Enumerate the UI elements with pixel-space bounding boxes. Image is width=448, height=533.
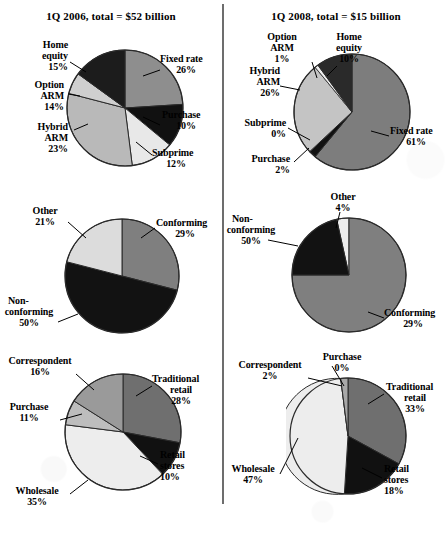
label-non-conforming: Non- conforming 50%	[224, 214, 278, 246]
label-hybrid-arm: Hybrid ARM 26%	[224, 66, 280, 98]
label-option-arm: Option ARM 14%	[2, 80, 64, 112]
figure-page: 1Q 2006, total = $52 billion	[0, 0, 448, 533]
chart-panel-conformance-2006: Other 21% Non- conforming 50% Conforming…	[0, 196, 222, 361]
label-other: Other 21%	[22, 206, 68, 228]
label-retail-stores: Retail stores 10%	[160, 450, 185, 482]
label-purchase: Purchase 11%	[0, 402, 58, 424]
label-correspondent: Correspondent 2%	[230, 360, 310, 382]
label-traditional-retail: Traditional retail 28%	[152, 374, 210, 406]
chart-title: 1Q 2008, total = $15 billion	[224, 10, 448, 22]
label-wholesale: Wholesale 47%	[224, 464, 282, 486]
label-subprime: Subprime 12%	[152, 148, 200, 170]
label-purchase: Purchase 10%	[162, 110, 210, 132]
slice-wholesale[interactable]	[286, 378, 348, 494]
label-non-conforming: Non- conforming 50%	[0, 296, 58, 328]
label-option-arm: Option ARM 1%	[254, 32, 310, 64]
label-purchase: Purchase 2%	[228, 154, 290, 176]
label-other: Other 4%	[320, 192, 366, 214]
label-fixed-rate: Fixed rate 61%	[390, 126, 442, 148]
chart-panel-conformance-2008: Other 4% Non- conforming 50% Conforming …	[224, 190, 448, 360]
label-purchase: Purchase 0%	[312, 352, 372, 374]
chart-panel-channel-2008: Correspondent 2% Purchase 0% Wholesale 4…	[224, 352, 448, 533]
label-conforming: Conforming 29%	[156, 218, 214, 240]
label-retail-stores: Retail stores 18%	[384, 464, 409, 496]
label-subprime: Subprime 0%	[224, 118, 286, 140]
label-fixed-rate: Fixed rate 26%	[160, 54, 212, 76]
chart-title: 1Q 2006, total = $52 billion	[0, 10, 222, 22]
label-correspondent: Correspondent 16%	[2, 356, 78, 378]
label-hybrid-arm: Hybrid ARM 23%	[6, 122, 68, 154]
chart-panel-product-mix-2008: 1Q 2008, total = $15 billion	[224, 0, 448, 195]
label-wholesale: Wholesale 35%	[6, 486, 68, 508]
chart-panel-product-mix-2006: 1Q 2006, total = $52 billion	[0, 0, 222, 195]
pie-svg	[290, 50, 414, 174]
chart-panel-channel-2006: Correspondent 16% Purchase 11% Wholesale…	[0, 352, 222, 533]
label-conforming: Conforming 29%	[384, 308, 442, 330]
label-traditional-retail: Traditional retail 33%	[386, 382, 444, 414]
pie-chart-product-mix-2008	[290, 50, 414, 174]
label-home-equity: Home equity 15%	[6, 40, 68, 72]
label-home-equity: Home equity 10%	[320, 32, 378, 64]
